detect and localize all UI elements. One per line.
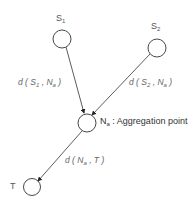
node-na (78, 114, 96, 132)
diagram-canvas (0, 0, 196, 209)
edge-label-part: ) (99, 155, 104, 165)
label-s1: S1 (56, 14, 65, 24)
node-t (24, 179, 41, 196)
edge-label-s1-na: d ( S1 , Na ) (18, 78, 61, 88)
node-s1 (53, 30, 71, 48)
edge-label-part: d ( S (18, 77, 36, 87)
edge-label-part: , N (150, 77, 163, 87)
node-s2 (148, 39, 166, 57)
edge-label-part: d ( N (65, 155, 83, 165)
edge-label-part: , T (87, 155, 99, 165)
edge-label-part: ) (167, 77, 172, 87)
label-t: T (10, 182, 16, 191)
label-s2-sub: 2 (157, 26, 160, 32)
edge-label-s2-na: d ( S2 , Na ) (129, 78, 172, 88)
label-t-name: T (10, 181, 16, 191)
edge-label-part: d ( S (129, 77, 147, 87)
label-na: Na : Aggregation point (100, 117, 187, 127)
label-na-desc: : Aggregation point (110, 116, 188, 126)
label-s1-sub: 1 (62, 18, 65, 24)
edge-label-part: ) (56, 77, 61, 87)
edge-label-na-t: d ( Na , T ) (65, 156, 104, 166)
edge-s1-na (66, 47, 84, 113)
label-s2: S2 (151, 22, 160, 32)
edge-label-part: , N (39, 77, 52, 87)
